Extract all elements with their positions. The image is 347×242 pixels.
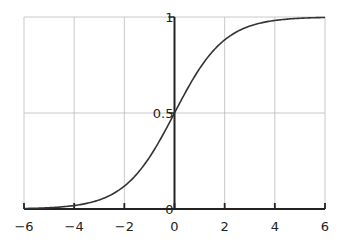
x-tick-label: 2 — [221, 219, 229, 234]
y-tick-label: 0.5 — [153, 106, 174, 121]
x-tick-labels: −6−4−20246 — [14, 219, 329, 234]
y-tick-labels: 00.51 — [153, 10, 174, 217]
x-tick-label: 4 — [271, 219, 279, 234]
x-tick-label: 0 — [170, 219, 178, 234]
x-tick-label: 6 — [321, 219, 329, 234]
y-tick-label: 1 — [165, 10, 173, 25]
x-tick-label: −4 — [65, 219, 84, 234]
y-tick-label: 0 — [165, 202, 173, 217]
sigmoid-chart: −6−4−20246 00.51 — [0, 0, 347, 242]
x-tick-label: −6 — [14, 219, 33, 234]
x-tick-label: −2 — [115, 219, 134, 234]
